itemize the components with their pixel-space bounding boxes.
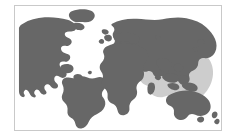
map-frame bbox=[14, 5, 222, 131]
figure-root bbox=[0, 0, 237, 139]
world-map-svg bbox=[15, 6, 221, 130]
